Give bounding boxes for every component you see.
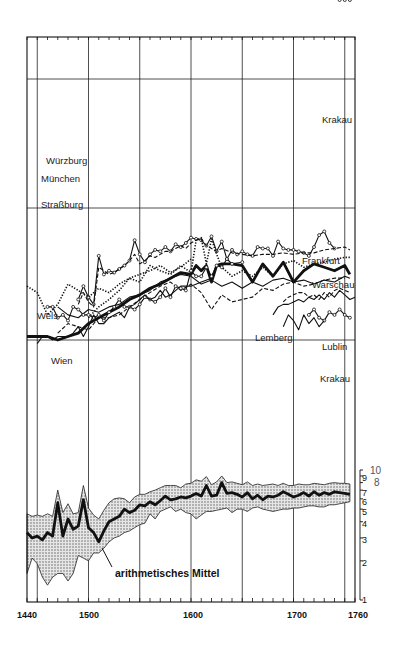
data-point: [210, 235, 213, 238]
label-muenchen: München: [41, 174, 80, 184]
y-tick-4: 4: [362, 519, 367, 529]
data-point: [266, 247, 269, 250]
data-point: [174, 285, 177, 288]
data-point: [82, 313, 85, 316]
data-point: [169, 296, 172, 299]
data-point: [97, 254, 100, 257]
label-lublin: Lublin: [322, 342, 347, 352]
data-point: [72, 305, 75, 308]
data-point: [82, 285, 85, 288]
data-point: [277, 240, 280, 243]
y-tick-7: 7: [362, 488, 367, 498]
data-point: [333, 313, 336, 316]
label-krakau-upper: Krakau: [322, 115, 352, 125]
data-point: [174, 243, 177, 246]
price-chart: [0, 0, 398, 651]
data-point: [318, 234, 321, 237]
data-point: [348, 316, 351, 319]
data-point: [225, 257, 228, 260]
mittel-pointer-arrow: [102, 548, 112, 567]
x-tick-1700: 1700: [287, 610, 307, 620]
label-arithmetisches-mittel: arithmetisches Mittel: [115, 568, 219, 579]
data-point: [159, 250, 162, 253]
data-point: [338, 308, 341, 311]
data-point: [61, 313, 64, 316]
x-tick-1440: 1440: [17, 610, 37, 620]
data-point: [138, 303, 141, 306]
data-point: [154, 248, 157, 251]
y-tick-10: 10: [370, 465, 381, 476]
data-point: [102, 273, 105, 276]
data-point: [138, 253, 141, 256]
label-krakau-lower: Krakau: [320, 374, 350, 384]
data-point: [133, 239, 136, 242]
data-point: [190, 269, 193, 272]
data-point: [348, 0, 351, 2]
label-wuerzburg: Würzburg: [46, 156, 87, 166]
y-tick-5: 5: [362, 507, 367, 517]
data-point: [241, 261, 244, 264]
data-point: [195, 275, 198, 278]
data-point: [292, 248, 295, 251]
data-point: [261, 247, 264, 250]
y-tick-3: 3: [362, 535, 367, 545]
data-point: [133, 308, 136, 311]
data-point: [343, 313, 346, 316]
y-tick-6: 6: [362, 497, 367, 507]
data-point: [118, 298, 121, 301]
data-point: [231, 248, 234, 251]
data-point: [123, 305, 126, 308]
data-point: [190, 236, 193, 239]
y-tick-8: 8: [374, 477, 380, 488]
label-lemberg: Lemberg: [255, 333, 293, 343]
data-point: [328, 241, 331, 244]
x-tick-1760: 1760: [348, 610, 368, 620]
y-tick-9: 9: [362, 473, 367, 483]
data-point: [97, 313, 100, 316]
data-point: [154, 300, 157, 303]
series-line: [58, 278, 345, 333]
data-point: [313, 308, 316, 311]
data-point: [313, 246, 316, 249]
label-wels: Wels: [37, 311, 58, 321]
data-point: [297, 250, 300, 253]
label-frankfurt: Frankfurt: [302, 256, 340, 266]
data-point: [108, 311, 111, 314]
data-point: [87, 313, 90, 316]
data-point: [200, 275, 203, 278]
data-point: [287, 248, 290, 251]
data-point: [282, 247, 285, 250]
data-point: [338, 0, 341, 2]
data-point: [164, 287, 167, 290]
data-point: [343, 0, 346, 2]
x-tick-1500: 1500: [79, 610, 99, 620]
data-point: [328, 311, 331, 314]
data-point: [159, 296, 162, 299]
label-wien: Wien: [51, 356, 73, 366]
data-point: [220, 266, 223, 269]
data-point: [231, 262, 234, 265]
data-point: [51, 305, 54, 308]
data-point: [67, 319, 70, 322]
data-point: [113, 305, 116, 308]
data-point: [220, 240, 223, 243]
data-point: [323, 230, 326, 233]
data-point: [77, 308, 80, 311]
data-point: [256, 246, 259, 249]
label-warschau: Warschau: [312, 280, 354, 290]
x-tick-1600: 1600: [183, 610, 203, 620]
data-point: [184, 289, 187, 292]
data-point: [215, 264, 218, 267]
data-point: [184, 241, 187, 244]
series-line: [89, 238, 350, 318]
data-point: [318, 316, 321, 319]
data-point: [307, 313, 310, 316]
data-point: [46, 305, 49, 308]
data-point: [210, 275, 213, 278]
label-strassburg: Straßburg: [41, 200, 83, 210]
data-point: [241, 250, 244, 253]
data-point: [205, 266, 208, 269]
data-point: [77, 298, 80, 301]
data-point: [108, 269, 111, 272]
data-point: [164, 246, 167, 249]
